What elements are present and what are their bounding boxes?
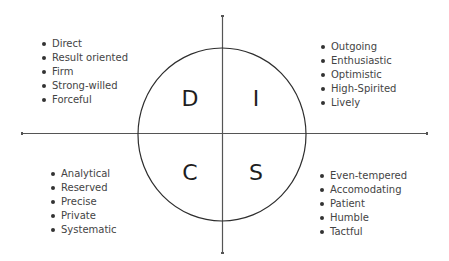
trait-item: Tactful xyxy=(319,225,407,239)
trait-list-s: Even-tempered Accomodating Patient Humbl… xyxy=(319,169,407,239)
trait-item: Optimistic xyxy=(320,68,396,82)
trait-item: Forceful xyxy=(41,93,128,107)
quadrant-letter-c: C xyxy=(182,162,197,184)
trait-item: Result oriented xyxy=(41,51,128,65)
trait-item: Analytical xyxy=(50,167,117,181)
horizontal-axis-right-tick xyxy=(426,132,428,135)
trait-item: Firm xyxy=(41,65,128,79)
vertical-axis-top-tick xyxy=(221,15,224,17)
vertical-axis-bottom-tick xyxy=(221,252,224,254)
trait-item: Reserved xyxy=(50,181,117,195)
trait-item: Humble xyxy=(319,211,407,225)
quadrant-letter-s: S xyxy=(249,162,263,184)
trait-list-d: Direct Result oriented Firm Strong-wille… xyxy=(41,37,128,107)
trait-item: Outgoing xyxy=(320,40,396,54)
quadrant-letter-d: D xyxy=(182,88,199,110)
trait-item: Systematic xyxy=(50,223,117,237)
quadrant-letter-i: I xyxy=(253,88,260,110)
trait-item: Direct xyxy=(41,37,128,51)
trait-list-i: Outgoing Enthusiastic Optimistic High-Sp… xyxy=(320,40,396,110)
trait-item: Patient xyxy=(319,197,407,211)
horizontal-axis-left-tick xyxy=(21,132,23,135)
trait-item: Accomodating xyxy=(319,183,407,197)
trait-item: Private xyxy=(50,209,117,223)
trait-item: Even-tempered xyxy=(319,169,407,183)
trait-item: Enthusiastic xyxy=(320,54,396,68)
trait-list-c: Analytical Reserved Precise Private Syst… xyxy=(50,167,117,237)
trait-item: Precise xyxy=(50,195,117,209)
trait-item: High-Spirited xyxy=(320,82,396,96)
trait-item: Strong-willed xyxy=(41,79,128,93)
trait-item: Lively xyxy=(320,96,396,110)
